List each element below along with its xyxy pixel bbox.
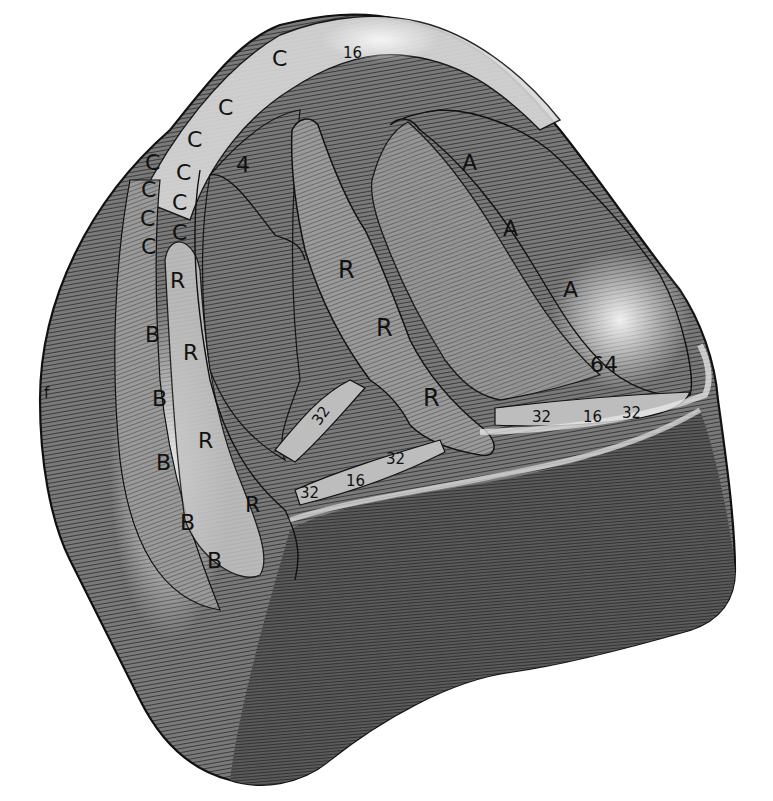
label-c-outer-3: C xyxy=(140,206,155,231)
label-a-1: A xyxy=(462,150,477,175)
label-r-center-2: R xyxy=(376,314,393,342)
label-b-1: B xyxy=(145,322,160,347)
label-center-band-32b: 32 xyxy=(386,450,405,468)
label-a-3: A xyxy=(563,277,578,302)
label-b-3: B xyxy=(156,450,171,475)
label-four: 4 xyxy=(236,152,250,177)
label-top-c: C xyxy=(272,46,287,71)
label-b-5: B xyxy=(207,548,222,573)
label-r-left-1: R xyxy=(170,268,185,293)
label-r-left-4: R xyxy=(245,492,260,517)
label-edge-f: f xyxy=(44,384,50,402)
label-r-center-3: R xyxy=(423,384,440,412)
specimen-illustration: C 16 C C C C C C C C C 4 R R R R B B B B… xyxy=(0,0,773,801)
label-c-upper: C xyxy=(218,95,233,120)
label-r-left-2: R xyxy=(183,340,198,365)
label-r-center-1: R xyxy=(338,256,355,284)
label-right-band-32a: 32 xyxy=(532,408,551,426)
label-c-outer-2: C xyxy=(141,177,156,202)
label-c-inner-2: C xyxy=(176,160,191,185)
label-a-2: A xyxy=(503,216,518,241)
label-sixty-four: 64 xyxy=(590,352,618,377)
label-b-4: B xyxy=(180,510,195,535)
label-c-inner-4: C xyxy=(172,220,187,245)
label-right-band-16: 16 xyxy=(583,408,602,426)
label-center-band-32a: 32 xyxy=(300,484,319,502)
label-top-16: 16 xyxy=(343,44,362,62)
label-b-2: B xyxy=(152,386,167,411)
label-c-inner-1: C xyxy=(187,127,202,152)
label-right-band-32b: 32 xyxy=(622,404,641,422)
label-c-outer-1: C xyxy=(145,150,160,175)
label-c-inner-3: C xyxy=(172,190,187,215)
label-center-band-16: 16 xyxy=(346,472,365,490)
label-r-left-3: R xyxy=(198,428,213,453)
label-c-outer-4: C xyxy=(141,234,156,259)
